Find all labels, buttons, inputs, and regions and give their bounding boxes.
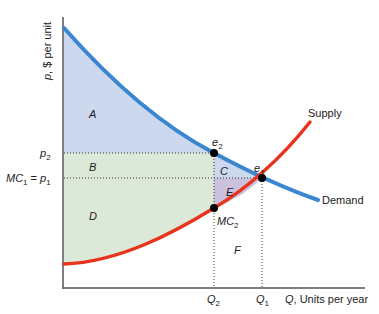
q2-label: Q2 [207,293,221,308]
x-axis-label: Q, Units per year [285,293,368,305]
area-a-label: A [88,108,96,120]
area-a [64,28,214,153]
p1-label: MC1 = p1 [6,172,51,187]
point-mc2 [210,204,218,212]
area-f-label: F [234,244,242,256]
supply-label: Supply [308,107,342,119]
mc2-label: MC2 [217,215,239,230]
e2-label: e2 [212,136,223,151]
q1-label: Q1 [256,293,270,308]
welfare-diagram: p, $ per unit p2 MC1 = p1 Q2 Q1 Q, Units… [0,0,379,314]
p2-label: p2 [39,147,51,162]
area-e-label: E [226,186,234,198]
point-e2 [210,149,218,157]
area-b-label: B [89,161,96,173]
area-d-label: D [89,210,97,222]
y-axis-label: p, $ per unit [41,22,53,81]
area-c-label: C [220,165,228,177]
demand-label: Demand [322,194,364,206]
